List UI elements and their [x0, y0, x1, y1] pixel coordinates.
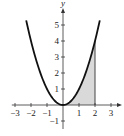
- y-tick-label: 5: [55, 20, 60, 30]
- tick-labels: −3−2−1123−112345y: [10, 0, 114, 126]
- y-axis-arrow-icon: [61, 8, 65, 13]
- y-tick-label: 3: [55, 52, 60, 62]
- y-tick-label: 2: [55, 68, 60, 78]
- x-tick-label: 1: [77, 108, 82, 118]
- x-tick-label: 3: [109, 108, 114, 118]
- x-tick-label: −3: [10, 108, 20, 118]
- plot: −3−2−1123−112345y: [0, 0, 124, 136]
- y-tick-label: 4: [55, 36, 60, 46]
- shaded-region: [63, 41, 95, 105]
- x-tick-label: 2: [93, 108, 98, 118]
- shaded-area: [63, 41, 95, 105]
- x-axis-arrow-icon: [117, 103, 122, 107]
- y-tick-label: 1: [55, 84, 60, 94]
- x-tick-label: −2: [26, 108, 36, 118]
- y-axis-label: y: [60, 0, 65, 8]
- y-tick-label: −1: [49, 116, 59, 126]
